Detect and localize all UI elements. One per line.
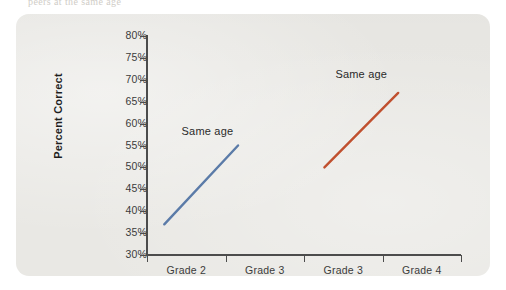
y-tick-label: 45% [99, 182, 147, 194]
y-tick-mark [140, 233, 147, 234]
y-tick-label: 75% [99, 51, 147, 63]
series-annotation-blue: Same age [182, 125, 234, 137]
y-tick-label: 40% [99, 204, 147, 216]
y-tick-mark [140, 80, 147, 81]
y-axis-title: Percent Correct [52, 61, 64, 171]
y-tick-30: 30% [76, 255, 147, 256]
y-tick-mark [140, 124, 147, 125]
y-tick-65: 65% [76, 102, 147, 103]
x-category-label: Grade 4 [383, 264, 462, 276]
y-tick-mark [140, 211, 147, 212]
y-tick-mark [140, 58, 147, 59]
figure-panel: Percent Correct 30%35%40%45%50%55%60%65%… [16, 14, 490, 276]
y-tick-mark [140, 102, 147, 103]
y-tick-mark [140, 146, 147, 147]
y-tick-40: 40% [76, 211, 147, 212]
y-tick-label: 60% [99, 117, 147, 129]
y-tick-45: 45% [76, 189, 147, 190]
y-tick-70: 70% [76, 80, 147, 81]
x-tick-mark [226, 255, 227, 262]
series-line-red [324, 93, 398, 167]
y-tick-label: 65% [99, 95, 147, 107]
plot-area: Percent Correct 30%35%40%45%50%55%60%65%… [16, 14, 490, 276]
y-tick-label: 50% [99, 160, 147, 172]
y-tick-50: 50% [76, 167, 147, 168]
x-tick-mark [461, 255, 462, 262]
y-tick-35: 35% [76, 233, 147, 234]
x-category-label: Grade 2 [147, 264, 226, 276]
x-tick-mark [147, 255, 148, 262]
y-tick-label: 55% [99, 139, 147, 151]
y-tick-60: 60% [76, 124, 147, 125]
y-tick-55: 55% [76, 146, 147, 147]
y-tick-75: 75% [76, 58, 147, 59]
y-tick-80: 80% [76, 36, 147, 37]
y-tick-mark [140, 189, 147, 190]
x-category-label: Grade 3 [304, 264, 383, 276]
y-tick-label: 30% [99, 248, 147, 260]
series-annotation-red: Same age [335, 68, 387, 80]
y-tick-mark [140, 36, 147, 37]
x-category-label: Grade 3 [226, 264, 305, 276]
y-tick-label: 35% [99, 226, 147, 238]
x-tick-mark [383, 255, 384, 262]
y-tick-mark [140, 167, 147, 168]
series-line-blue [164, 146, 238, 225]
x-tick-mark [304, 255, 305, 262]
page-bleed-text-top: peers at the same age [28, 0, 121, 7]
y-tick-label: 80% [99, 29, 147, 41]
y-tick-label: 70% [99, 73, 147, 85]
